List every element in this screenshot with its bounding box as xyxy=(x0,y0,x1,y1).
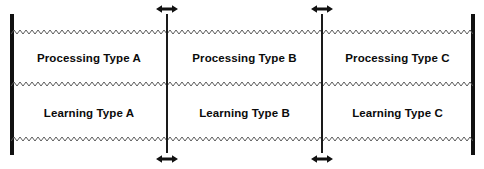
learning-type-b-label: Learning Type B xyxy=(169,106,320,120)
divider-2-bottom-resize-arrow-icon[interactable] xyxy=(310,153,334,165)
divider-2[interactable] xyxy=(321,14,323,153)
zigzag-top-boundary xyxy=(11,27,473,37)
learning-type-c-label: Learning Type C xyxy=(324,106,471,120)
divider-2-top-resize-arrow-icon[interactable] xyxy=(310,3,334,15)
processing-type-c-label: Processing Type C xyxy=(324,51,471,65)
divider-1-bottom-resize-arrow-icon[interactable] xyxy=(155,153,179,165)
learning-type-a-label: Learning Type A xyxy=(13,106,165,120)
continuum-diagram: Processing Type A Processing Type B Proc… xyxy=(0,0,484,169)
divider-1-top-resize-arrow-icon[interactable] xyxy=(155,3,179,15)
divider-1[interactable] xyxy=(166,14,168,153)
processing-type-a-label: Processing Type A xyxy=(13,51,165,65)
zigzag-bottom-boundary xyxy=(11,134,473,144)
processing-type-b-label: Processing Type B xyxy=(169,51,320,65)
zigzag-middle-boundary xyxy=(11,79,473,89)
